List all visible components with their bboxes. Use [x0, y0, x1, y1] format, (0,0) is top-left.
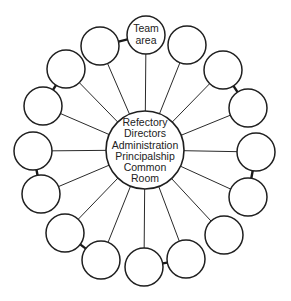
- spoke-line: [159, 187, 180, 242]
- hub-label-room: Room: [104, 173, 186, 184]
- spoke-line: [108, 63, 130, 114]
- team-label-line-2: area: [126, 34, 166, 46]
- team-area-label: Team area: [126, 22, 166, 46]
- outer-node-circle: [205, 216, 243, 254]
- spoke-line: [58, 165, 109, 186]
- outer-node-circle: [81, 27, 119, 65]
- outer-node-circle: [167, 240, 205, 278]
- pair-link-line: [80, 244, 86, 248]
- outer-node-circle: [24, 87, 62, 125]
- outer-node-circle: [229, 89, 267, 127]
- spoke-line: [184, 151, 237, 152]
- pair-link-line: [36, 170, 37, 176]
- outer-node-circle: [125, 248, 163, 286]
- spoke-line: [144, 189, 145, 248]
- pair-link-line: [233, 86, 237, 92]
- outer-node-circle: [46, 214, 84, 252]
- hub-label-directors: Directors: [104, 128, 186, 139]
- central-hub-label: Refectory Directors Administration Princ…: [104, 117, 186, 185]
- pair-link-line: [251, 171, 252, 179]
- spoke-line: [180, 166, 230, 189]
- team-label-line-1: Team: [126, 22, 166, 34]
- outer-node-circle: [168, 26, 206, 64]
- outer-node-circle: [237, 133, 275, 171]
- outer-node-circle: [14, 132, 52, 170]
- spoke-line: [181, 115, 230, 135]
- outer-node-circle: [47, 50, 85, 88]
- spoke-line: [172, 179, 212, 222]
- spoke-line: [60, 114, 109, 135]
- spoke-line: [159, 63, 179, 114]
- spoke-line: [108, 186, 130, 242]
- outer-node-circle: [22, 175, 60, 213]
- pair-link-line: [53, 85, 56, 90]
- outer-node-circle: [204, 51, 242, 89]
- outer-node-circle: [229, 178, 267, 216]
- outer-node-circle: [82, 241, 120, 279]
